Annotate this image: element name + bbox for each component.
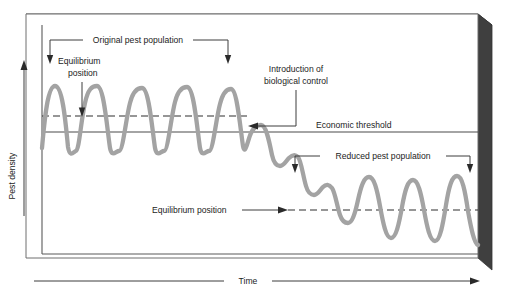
- y-axis-label-group: Pest density: [7, 60, 28, 216]
- figure-container: Pest density Time Original pest populati…: [0, 0, 514, 296]
- frame-right-bevel: [478, 14, 492, 270]
- original-pest-population-label: Original pest population: [93, 35, 184, 45]
- x-axis-arrowhead-icon: [470, 278, 480, 285]
- introduction-label-line1: Introduction of: [269, 64, 324, 74]
- reduced-pest-population-label: Reduced pest population: [335, 151, 430, 161]
- equilibrium-bottom-label: Equilibrium position: [152, 205, 227, 215]
- x-axis-label: Time: [239, 276, 258, 286]
- x-axis-label-group: Time: [34, 276, 480, 286]
- y-axis-label: Pest density: [7, 152, 17, 200]
- equilibrium-top-label-line1: Equilibrium: [58, 56, 101, 66]
- economic-threshold-label: Economic threshold: [316, 120, 392, 130]
- introduction-label-line2: biological control: [264, 76, 328, 86]
- equilibrium-top-label-line2: position: [68, 68, 98, 78]
- pest-population-chart: Pest density Time Original pest populati…: [0, 0, 514, 296]
